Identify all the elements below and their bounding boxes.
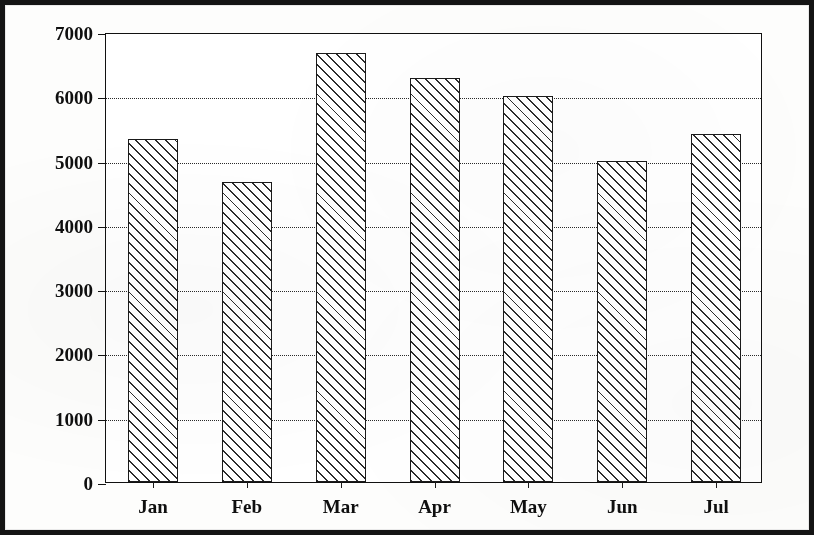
y-axis-tick-label: 3000 (55, 280, 93, 302)
y-axis-tick (98, 98, 106, 99)
y-axis-tick (98, 355, 106, 356)
y-axis-tick (98, 291, 106, 292)
y-axis-tick-label: 4000 (55, 216, 93, 238)
x-axis-tick-label: Jul (703, 496, 728, 518)
chart-title-strip (0, 0, 814, 5)
chart-screenshot: 70006000500040003000200010000JanFebMarAp… (0, 0, 814, 535)
bar-mar (316, 53, 366, 482)
bar-jun (597, 161, 647, 482)
y-axis-tick-label: 5000 (55, 152, 93, 174)
y-axis-tick (98, 420, 106, 421)
x-axis-tick-label: Mar (323, 496, 359, 518)
x-axis-tick (435, 482, 436, 488)
y-axis-tick (98, 163, 106, 164)
bar-may (503, 96, 553, 482)
plot-area: 70006000500040003000200010000JanFebMarAp… (105, 33, 762, 483)
x-axis-tick (528, 482, 529, 488)
bar-chart: 70006000500040003000200010000JanFebMarAp… (0, 0, 814, 535)
x-axis-tick-label: May (510, 496, 547, 518)
y-axis-tick (98, 484, 106, 485)
y-axis-tick-label: 2000 (55, 344, 93, 366)
bar-jul (691, 134, 741, 482)
bar-jan (128, 139, 178, 482)
x-axis-tick (247, 482, 248, 488)
bar-apr (410, 78, 460, 482)
y-axis-tick (98, 227, 106, 228)
x-axis-tick (341, 482, 342, 488)
x-axis-tick (153, 482, 154, 488)
x-axis-tick-label: Apr (418, 496, 451, 518)
y-axis-tick-label: 6000 (55, 87, 93, 109)
y-axis-tick (98, 34, 106, 35)
bar-feb (222, 182, 272, 482)
y-axis-tick-label: 0 (84, 473, 94, 495)
y-axis-tick-label: 1000 (55, 409, 93, 431)
y-axis-tick-label: 7000 (55, 23, 93, 45)
x-axis-tick-label: Jan (138, 496, 168, 518)
x-axis-tick (716, 482, 717, 488)
x-axis-tick-label: Jun (607, 496, 638, 518)
x-axis-tick (622, 482, 623, 488)
x-axis-tick-label: Feb (231, 496, 262, 518)
